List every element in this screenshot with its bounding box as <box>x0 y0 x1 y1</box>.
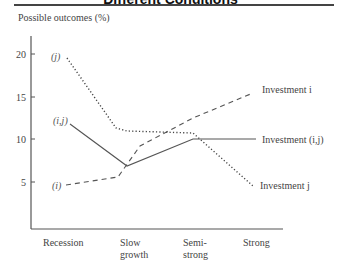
x-category-label: Strong <box>243 237 270 249</box>
label-i-start: (i) <box>52 180 62 192</box>
x-category-label-line1: Slow <box>120 237 148 249</box>
x-category-recession: Recession <box>43 237 84 249</box>
x-category-slow-growth: Slow growth <box>120 237 148 261</box>
x-category-label-line2: strong <box>183 249 208 261</box>
y-tick-label-10: 10 <box>16 134 26 145</box>
x-category-label-line2: growth <box>120 249 148 261</box>
y-tick-label-15: 15 <box>16 92 26 103</box>
series-investment-ij-line <box>70 124 256 166</box>
y-tick-label-5: 5 <box>21 177 26 188</box>
label-investment-i: Investment i <box>262 84 312 95</box>
label-investment-ij: Investment (i,j) <box>262 134 324 146</box>
label-investment-j: Investment j <box>260 180 310 191</box>
x-category-strong: Strong <box>243 237 270 249</box>
label-ij-start: (i,j) <box>53 115 68 127</box>
chart-plot: 20 15 10 5 (j) (i,j) (i) Investment i In… <box>0 0 341 269</box>
x-category-semi-strong: Semi- strong <box>183 237 208 261</box>
x-category-label: Recession <box>43 237 84 249</box>
series-investment-j-line <box>67 58 253 186</box>
label-j-start: (j) <box>51 51 61 63</box>
y-tick-label-20: 20 <box>16 49 26 60</box>
x-category-label-line1: Semi- <box>183 237 208 249</box>
